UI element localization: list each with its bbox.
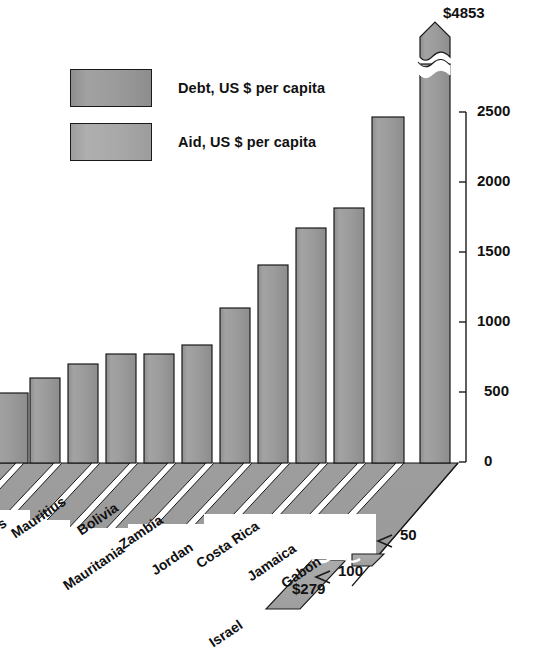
debt-swatch	[70, 69, 152, 107]
depth-tick-100: 100	[338, 562, 363, 579]
legend-item-debt: Debt, US $ per capita	[70, 69, 325, 107]
debt-bar-israel	[420, 64, 450, 463]
legend-label-debt: Debt, US $ per capita	[178, 80, 325, 96]
debt-bar	[372, 117, 404, 463]
debt-bar	[144, 354, 174, 463]
ytick-0: 0	[484, 452, 492, 469]
depth-tick-50: 50	[400, 526, 417, 543]
debt-bar	[258, 265, 288, 463]
chart-legend: Debt, US $ per capita Aid, US $ per capi…	[70, 69, 325, 161]
value-label-top: $4853	[443, 4, 485, 21]
debt-bar	[68, 364, 98, 463]
debt-bar	[334, 208, 364, 463]
debt-bar	[106, 354, 136, 463]
debt-bar	[30, 378, 60, 463]
axis-break-israel	[418, 22, 450, 78]
legend-label-aid: Aid, US $ per capita	[178, 134, 316, 150]
ytick-2000: 2000	[477, 172, 510, 189]
value-axis	[459, 112, 466, 462]
debt-bar	[296, 228, 326, 463]
legend-item-aid: Aid, US $ per capita	[70, 123, 325, 161]
ytick-2500: 2500	[477, 102, 510, 119]
ytick-1500: 1500	[477, 242, 510, 259]
bar-chart-figure: Debt, US $ per capita Aid, US $ per capi…	[0, 0, 538, 661]
ytick-500: 500	[484, 382, 509, 399]
debt-bar	[220, 308, 250, 463]
debt-bar	[0, 393, 28, 463]
ytick-1000: 1000	[477, 312, 510, 329]
debt-bar	[182, 345, 212, 463]
aid-swatch	[70, 123, 152, 161]
